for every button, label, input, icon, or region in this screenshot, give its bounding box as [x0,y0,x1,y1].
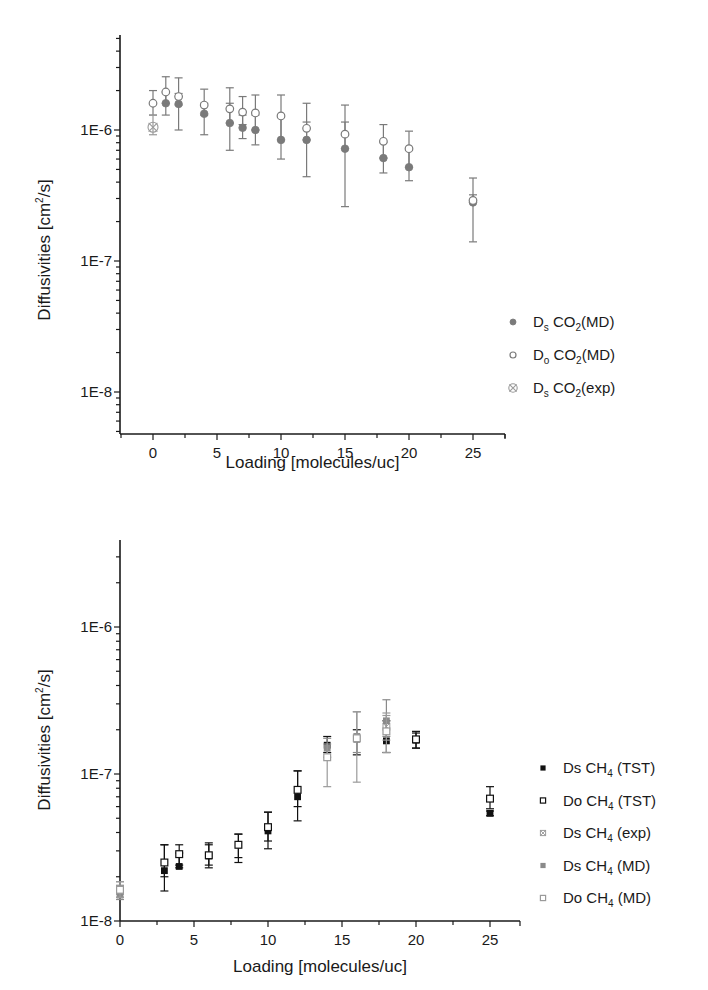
open-circle-marker-icon [252,109,260,117]
open-circle-marker-icon [469,197,477,205]
filled-square-marker-icon [540,765,545,770]
open-circle-marker-icon [200,101,208,109]
legend-item: Do CH4 (TST) [540,792,656,812]
x-tick-label: 5 [213,444,221,461]
x-tick-label: 0 [116,931,124,948]
series-do-ch4-md- [116,712,390,897]
open-circle-marker-icon [149,99,157,107]
y-tick-label: 1E-8 [80,912,112,929]
open-square-marker-icon [265,824,272,831]
open-square-marker-icon [540,798,545,803]
y-axis-label: Diffusivities [cm2/s] [34,669,54,810]
x-tick-label: 15 [334,931,351,948]
y-tick-label: 1E-7 [80,765,112,782]
y-axis-label: Diffusivities [cm2/s] [34,179,54,320]
legend-label: Ds CO2(MD) [533,313,614,333]
open-square-marker-icon [205,852,212,859]
open-circle-marker-icon [380,137,388,145]
error-bar [353,712,361,782]
x-axis-label: Loading [molecules/uc] [226,453,400,472]
x-tick-label: 0 [149,444,157,461]
co2-diffusivity-chart: 05101520251E-61E-71E-8Loading [molecules… [34,35,615,472]
legend-item: Ds CO2(MD) [510,313,614,333]
x-tick-label: 20 [401,444,418,461]
legend-label: Do CH4 (TST) [563,792,656,812]
legend-label: Ds CH4 (exp) [563,824,651,844]
y-tick-label: 1E-8 [80,383,112,400]
open-square-marker-icon [117,886,124,893]
open-square-marker-icon [487,795,494,802]
open-square-marker-icon [294,786,301,793]
legend-item: Ds CH4 (TST) [540,759,655,779]
series-ds-co2-md- [162,92,477,242]
series-ds-ch4-md- [116,700,390,900]
series-ds-co2-exp- [148,115,158,135]
ch4-diffusivity-chart: 05101520251E-61E-71E-8Loading [molecules… [34,540,656,976]
open-square-marker-icon [383,728,390,735]
open-circle-marker-icon [303,125,311,133]
legend-item: Ds CO2(exp) [509,379,615,399]
x-tick-label: 25 [465,444,482,461]
y-tick-label: 1E-6 [80,121,112,138]
crossed-circle-marker-icon [509,384,517,392]
filled-square-marker-icon [540,863,545,868]
legend-label: Ds CO2(exp) [533,379,615,399]
legend-item: Ds CH4 (MD) [540,857,650,877]
open-circle-marker-icon [175,93,183,101]
legend-item: Ds CH4 (exp) [540,824,651,844]
open-square-marker-icon [540,895,545,900]
series-ds-ch4-exp- [116,716,390,898]
open-circle-marker-icon [277,112,285,120]
open-square-marker-icon [235,841,242,848]
open-square-marker-icon [413,736,420,743]
open-circle-marker-icon [162,88,170,96]
legend-label: Do CO2(MD) [533,346,615,366]
crossed-square-marker-icon [540,830,545,835]
open-circle-marker-icon [510,352,516,358]
filled-circle-marker-icon [510,319,516,325]
legend-item: Do CO2(MD) [510,346,615,366]
legend-item: Do CH4 (MD) [540,889,651,909]
legend-label: Ds CH4 (TST) [563,759,655,779]
error-bar [341,105,349,149]
open-square-marker-icon [353,735,360,742]
open-square-marker-icon [176,851,183,858]
open-circle-marker-icon [239,108,247,116]
open-square-marker-icon [161,859,168,866]
filled-square-marker-icon [487,810,494,817]
open-circle-marker-icon [405,145,413,153]
open-circle-marker-icon [341,130,349,138]
x-tick-label: 20 [408,931,425,948]
y-tick-label: 1E-6 [80,618,112,635]
diffusivity-figure: 05101520251E-61E-71E-8Loading [molecules… [0,0,708,990]
x-tick-label: 25 [482,931,499,948]
x-axis-label: Loading [molecules/uc] [233,957,407,976]
x-tick-label: 5 [190,931,198,948]
open-circle-marker-icon [226,105,234,113]
legend-label: Ds CH4 (MD) [563,857,650,877]
legend-label: Do CH4 (MD) [563,889,651,909]
x-tick-label: 10 [260,931,277,948]
y-tick-label: 1E-7 [80,252,112,269]
open-square-marker-icon [324,754,331,761]
series-do-co2-md- [149,77,477,204]
